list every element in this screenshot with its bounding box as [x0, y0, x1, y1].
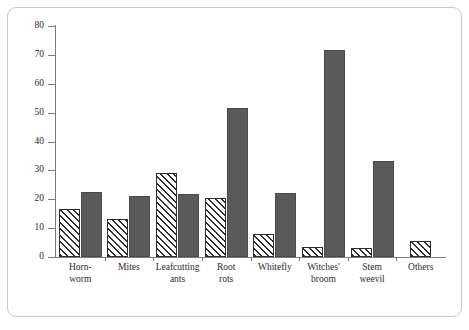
- y-tick-10: [48, 228, 56, 229]
- bar: [178, 194, 199, 257]
- x-group-separator: [348, 257, 349, 261]
- y-tick-60: [48, 84, 56, 85]
- y-tick-label-10: 10: [0, 223, 44, 233]
- bar: [107, 219, 128, 257]
- y-tick-label-0: 0: [0, 252, 44, 262]
- y-tick-80: [48, 26, 56, 27]
- bar: [275, 193, 296, 257]
- y-tick-40: [48, 142, 56, 143]
- y-tick-label-20: 20: [0, 194, 44, 204]
- x-tick-label: Others: [390, 262, 451, 274]
- bar: [81, 192, 102, 257]
- y-tick-label-70: 70: [0, 50, 44, 60]
- plot-area: [56, 26, 445, 257]
- y-tick-label-50: 50: [0, 108, 44, 118]
- bar: [373, 161, 394, 257]
- x-group-separator: [202, 257, 203, 261]
- x-group-separator: [251, 257, 252, 261]
- chart-figure: Percentage 01020304050607080 Horn- wormM…: [0, 0, 469, 330]
- x-group-separator: [396, 257, 397, 261]
- bar: [302, 247, 323, 257]
- bar: [253, 234, 274, 257]
- bar: [227, 108, 248, 257]
- y-tick-label-40: 40: [0, 137, 44, 147]
- bar: [205, 198, 226, 257]
- bar: [351, 248, 372, 257]
- y-tick-20: [48, 199, 56, 200]
- y-tick-50: [48, 113, 56, 114]
- bar: [129, 196, 150, 258]
- x-group-separator: [153, 257, 154, 261]
- y-tick-label-30: 30: [0, 165, 44, 175]
- x-group-separator: [105, 257, 106, 261]
- y-tick-30: [48, 170, 56, 171]
- bar: [324, 50, 345, 257]
- y-tick-label-60: 60: [0, 79, 44, 89]
- y-tick-label-80: 80: [0, 21, 44, 31]
- bar: [156, 173, 177, 257]
- y-tick-0: [48, 257, 56, 258]
- y-tick-70: [48, 55, 56, 56]
- bar: [410, 241, 431, 257]
- bar: [59, 209, 80, 257]
- x-group-separator: [299, 257, 300, 261]
